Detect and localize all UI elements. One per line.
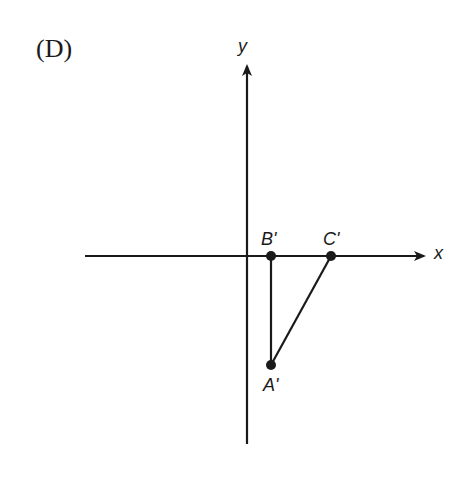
point-b-prime (266, 251, 276, 261)
coordinate-diagram (0, 0, 467, 482)
point-a-prime (266, 360, 276, 370)
segment-a-c (271, 256, 331, 365)
label-b-prime: B' (261, 229, 276, 250)
label-c-prime: C' (323, 229, 339, 250)
y-axis-label: y (238, 36, 247, 57)
point-c-prime (326, 251, 336, 261)
x-axis-label: x (434, 243, 443, 264)
label-a-prime: A' (263, 375, 278, 396)
